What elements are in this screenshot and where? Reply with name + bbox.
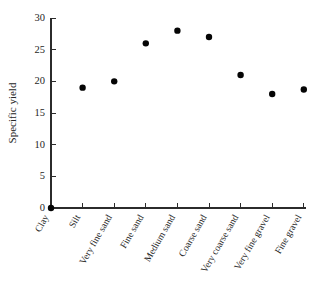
data-point <box>48 205 54 211</box>
x-axis-tick-label: Fine gravel <box>272 212 303 255</box>
data-points-layer <box>48 27 307 211</box>
y-axis-tick-label: 15 <box>35 107 46 118</box>
y-axis-tick-label: 5 <box>40 170 45 181</box>
x-axis <box>51 203 306 208</box>
data-point <box>301 86 307 92</box>
y-axis-tick-label: 25 <box>35 44 46 55</box>
y-axis-title: Specific yield <box>6 82 18 143</box>
y-axis: 051015202530 <box>35 12 57 213</box>
data-point <box>269 91 275 97</box>
x-axis-tick-label: Coarse sand <box>176 212 209 258</box>
chart-canvas: 051015202530 ClaySiltVery fine sandFine … <box>0 0 324 305</box>
x-axis-tick-label: Clay <box>32 212 51 233</box>
y-axis-tick-label: 10 <box>35 139 46 150</box>
y-axis-tick-label: 30 <box>35 12 46 23</box>
x-axis-tick-label: Medium sand <box>141 212 177 263</box>
data-point <box>237 72 243 78</box>
scatter-chart: 051015202530 ClaySiltVery fine sandFine … <box>0 0 324 305</box>
y-axis-tick-label: 20 <box>35 75 46 86</box>
x-axis-tick-label: Silt <box>66 212 82 229</box>
data-point <box>111 78 117 84</box>
data-point <box>143 40 149 46</box>
x-axis-tick-label: Fine sand <box>117 212 145 250</box>
y-axis-tick-label: 0 <box>40 202 45 213</box>
data-point <box>79 84 85 90</box>
data-point <box>206 34 212 40</box>
x-axis-tick-label: Very fine sand <box>77 212 114 266</box>
data-point <box>174 27 180 33</box>
